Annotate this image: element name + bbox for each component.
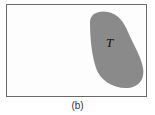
region-shape [0, 0, 155, 115]
region-label: T [106, 35, 113, 51]
figure-caption: (b) [0, 100, 155, 111]
